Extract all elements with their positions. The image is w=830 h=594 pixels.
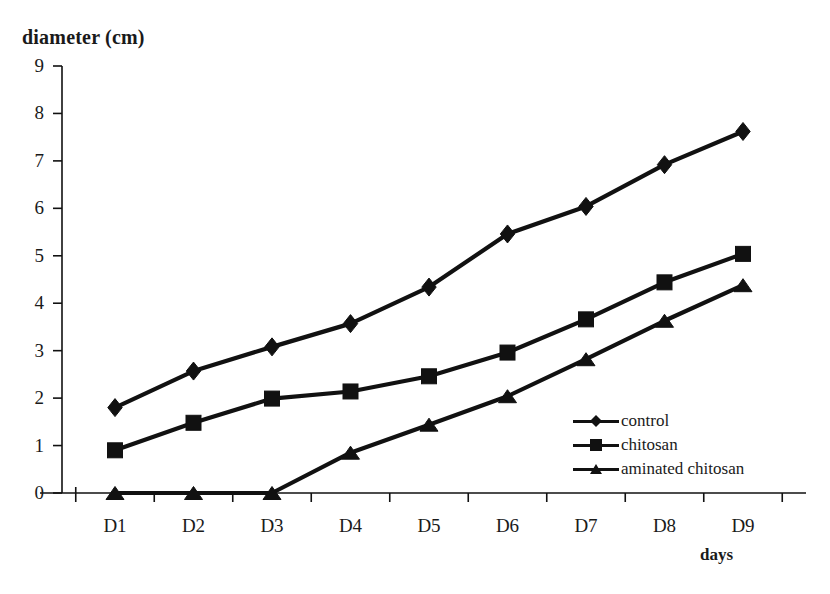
y-axis-tick-label: 4 (18, 292, 44, 314)
data-point-square (108, 443, 123, 458)
x-axis-tick-label: D7 (558, 515, 614, 537)
data-point-diamond (265, 338, 279, 356)
y-axis-tick-label: 5 (18, 245, 44, 267)
legend-label: chitosan (621, 435, 678, 455)
data-point-square (657, 275, 672, 290)
data-point-triangle (734, 279, 752, 292)
data-point-square (736, 246, 751, 261)
y-axis-tick-label: 6 (18, 197, 44, 219)
x-axis-tick-label: D9 (715, 515, 771, 537)
x-axis-tick-label: D6 (480, 515, 536, 537)
legend-item-chitosan: chitosan (573, 433, 823, 457)
data-point-diamond (657, 156, 671, 174)
y-axis-tick-label: 3 (18, 340, 44, 362)
data-point-square (422, 369, 437, 384)
y-axis-tick-label: 9 (18, 55, 44, 77)
data-point-triangle (590, 464, 602, 474)
data-point-square (500, 345, 515, 360)
legend: controlchitosanaminated chitosan (573, 409, 823, 481)
plot-area (0, 0, 830, 594)
legend-marker-square-icon (573, 438, 619, 452)
legend-label: control (621, 411, 669, 431)
series-line (115, 131, 743, 407)
y-axis-tick-label: 8 (18, 102, 44, 124)
legend-marker-diamond-icon (573, 414, 619, 428)
y-axis-tick-label: 7 (18, 150, 44, 172)
legend-item-aminated-chitosan: aminated chitosan (573, 457, 823, 481)
x-axis-tick-label: D4 (323, 515, 379, 537)
data-point-diamond (108, 399, 122, 417)
y-axis-tick-label: 1 (18, 435, 44, 457)
x-axis-tick-label: D5 (401, 515, 457, 537)
x-axis-tick-label: D1 (87, 515, 143, 537)
x-axis-title: days (700, 545, 733, 565)
y-axis-title: diameter (cm) (22, 26, 145, 49)
data-point-diamond (579, 197, 593, 215)
x-axis-tick-label: D8 (637, 515, 693, 537)
data-point-diamond (343, 315, 357, 333)
data-point-square (579, 312, 594, 327)
chart-container: diameter (cm) days 9876543210 D1D2D3D4D5… (0, 0, 830, 594)
data-point-diamond (422, 278, 436, 296)
x-axis-tick-label: D3 (244, 515, 300, 537)
legend-marker-triangle-icon (573, 462, 619, 476)
legend-label: aminated chitosan (621, 459, 744, 479)
data-point-square (590, 439, 602, 451)
data-point-diamond (500, 225, 514, 243)
y-axis-tick-label: 0 (18, 482, 44, 504)
data-point-triangle (342, 446, 360, 459)
data-point-triangle (420, 418, 438, 431)
y-axis-tick-label: 2 (18, 387, 44, 409)
data-point-square (186, 415, 201, 430)
data-point-diamond (590, 415, 602, 427)
data-point-diamond (186, 362, 200, 380)
legend-item-control: control (573, 409, 823, 433)
data-point-square (265, 391, 280, 406)
data-point-square (343, 384, 358, 399)
x-axis-tick-label: D2 (166, 515, 222, 537)
data-point-diamond (736, 122, 750, 140)
